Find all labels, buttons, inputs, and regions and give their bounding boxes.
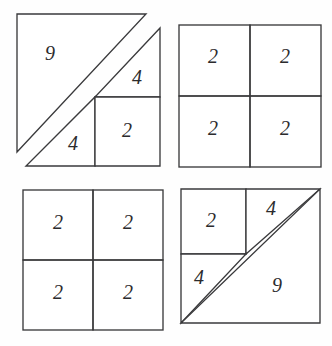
label-cell-bottom-left: 2 bbox=[53, 281, 63, 303]
label-cell-top-right: 2 bbox=[123, 211, 133, 233]
label-piece-4-upper: 4 bbox=[132, 66, 142, 88]
label-cell-bottom-left: 2 bbox=[208, 117, 218, 139]
dissection-paradox-figure: 9 4 4 2 2 2 2 2 2 2 2 2 bbox=[0, 0, 332, 346]
label-piece-2: 2 bbox=[206, 209, 216, 231]
label-piece-9: 9 bbox=[272, 274, 282, 296]
label-piece-9: 9 bbox=[45, 42, 55, 64]
label-piece-4-upper: 4 bbox=[266, 197, 276, 219]
label-cell-top-left: 2 bbox=[208, 45, 218, 67]
diagram-canvas: 9 4 4 2 2 2 2 2 2 2 2 2 bbox=[0, 0, 332, 346]
label-cell-top-left: 2 bbox=[53, 211, 63, 233]
panel-top-right: 2 2 2 2 bbox=[179, 25, 321, 167]
panel-top-left: 9 4 4 2 bbox=[17, 14, 160, 166]
label-cell-top-right: 2 bbox=[280, 45, 290, 67]
label-cell-bottom-right: 2 bbox=[123, 281, 133, 303]
label-cell-bottom-right: 2 bbox=[280, 117, 290, 139]
panel-bottom-right: 2 4 4 9 bbox=[181, 189, 320, 323]
label-piece-4-lower: 4 bbox=[68, 132, 78, 154]
label-piece-4-lower: 4 bbox=[194, 266, 204, 288]
panel-bottom-left: 2 2 2 2 bbox=[23, 190, 163, 330]
label-piece-2: 2 bbox=[122, 119, 132, 141]
